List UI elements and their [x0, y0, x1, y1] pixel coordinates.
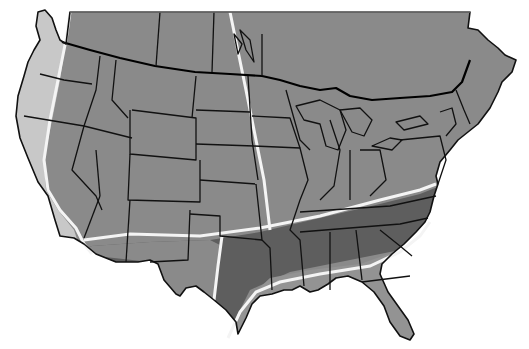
us-zone-map	[0, 0, 529, 349]
interior-zone	[0, 0, 529, 349]
map-container	[0, 0, 529, 349]
land-zones	[0, 0, 529, 349]
southwest-zone	[60, 240, 220, 300]
